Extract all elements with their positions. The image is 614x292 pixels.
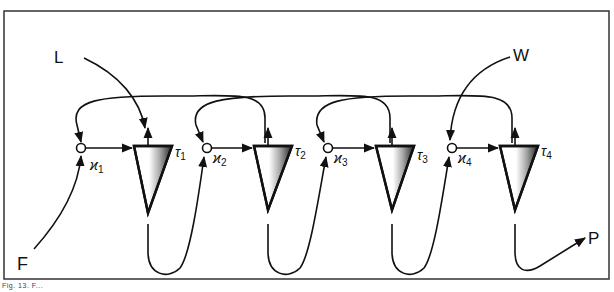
input-L-arrow (84, 58, 145, 128)
label-P: P (588, 229, 599, 248)
block-3 (376, 146, 414, 210)
label-F: F (17, 254, 28, 274)
junction-label-1: ϰ1 (89, 157, 104, 175)
diagram-canvas: L W F P ϰ1 ϰ2 ϰ3 ϰ4 τ1 τ2 τ3 τ4 (0, 0, 614, 292)
output-P-arrow (515, 224, 585, 270)
block-1 (134, 146, 172, 213)
summing-junction-4 (448, 144, 457, 153)
block-label-4: τ4 (541, 143, 552, 161)
feedback-arc-1 (76, 95, 265, 143)
junction-label-4: ϰ4 (457, 150, 472, 168)
summing-junction-2 (203, 144, 212, 153)
summing-junction-1 (77, 144, 86, 153)
block-4 (500, 146, 538, 210)
label-W: W (513, 46, 529, 65)
label-L: L (54, 48, 63, 67)
junction-label-2: ϰ2 (212, 150, 227, 168)
junction-label-3: ϰ3 (333, 150, 348, 168)
input-W-arrow (450, 57, 510, 140)
block-2 (254, 146, 292, 210)
summing-junction-3 (324, 144, 333, 153)
block-label-3: τ3 (417, 147, 428, 165)
feedback-arc-2 (195, 95, 390, 143)
feedback-arc-3 (317, 95, 512, 143)
input-F-arrow (34, 156, 81, 249)
block-label-1: τ1 (175, 144, 186, 162)
block-label-2: τ2 (295, 143, 306, 161)
figure-caption: Fig. 13. F... (2, 282, 43, 289)
